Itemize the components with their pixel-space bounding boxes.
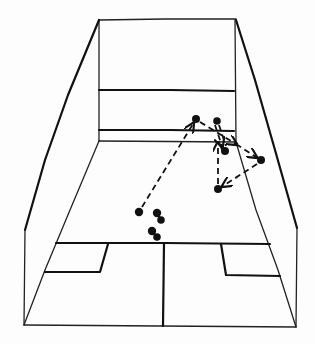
ball-position-3: [213, 117, 221, 125]
service-line: [99, 90, 234, 91]
side-walls: [24, 20, 297, 327]
squash-court-diagram: [0, 0, 315, 344]
ball-position-4: [221, 147, 229, 155]
ball-position-6: [214, 185, 222, 193]
front-wall-floor-line: [99, 141, 236, 142]
court-drawing: [0, 0, 315, 344]
ball-trajectories: [142, 122, 257, 207]
ball-position-1: [135, 208, 143, 216]
ball-position-2: [192, 115, 200, 123]
player-marks: [148, 209, 165, 241]
ball-position-5: [257, 156, 265, 164]
right-service-box: [221, 244, 280, 276]
floor: [24, 141, 296, 327]
half-court-line: [163, 243, 164, 326]
